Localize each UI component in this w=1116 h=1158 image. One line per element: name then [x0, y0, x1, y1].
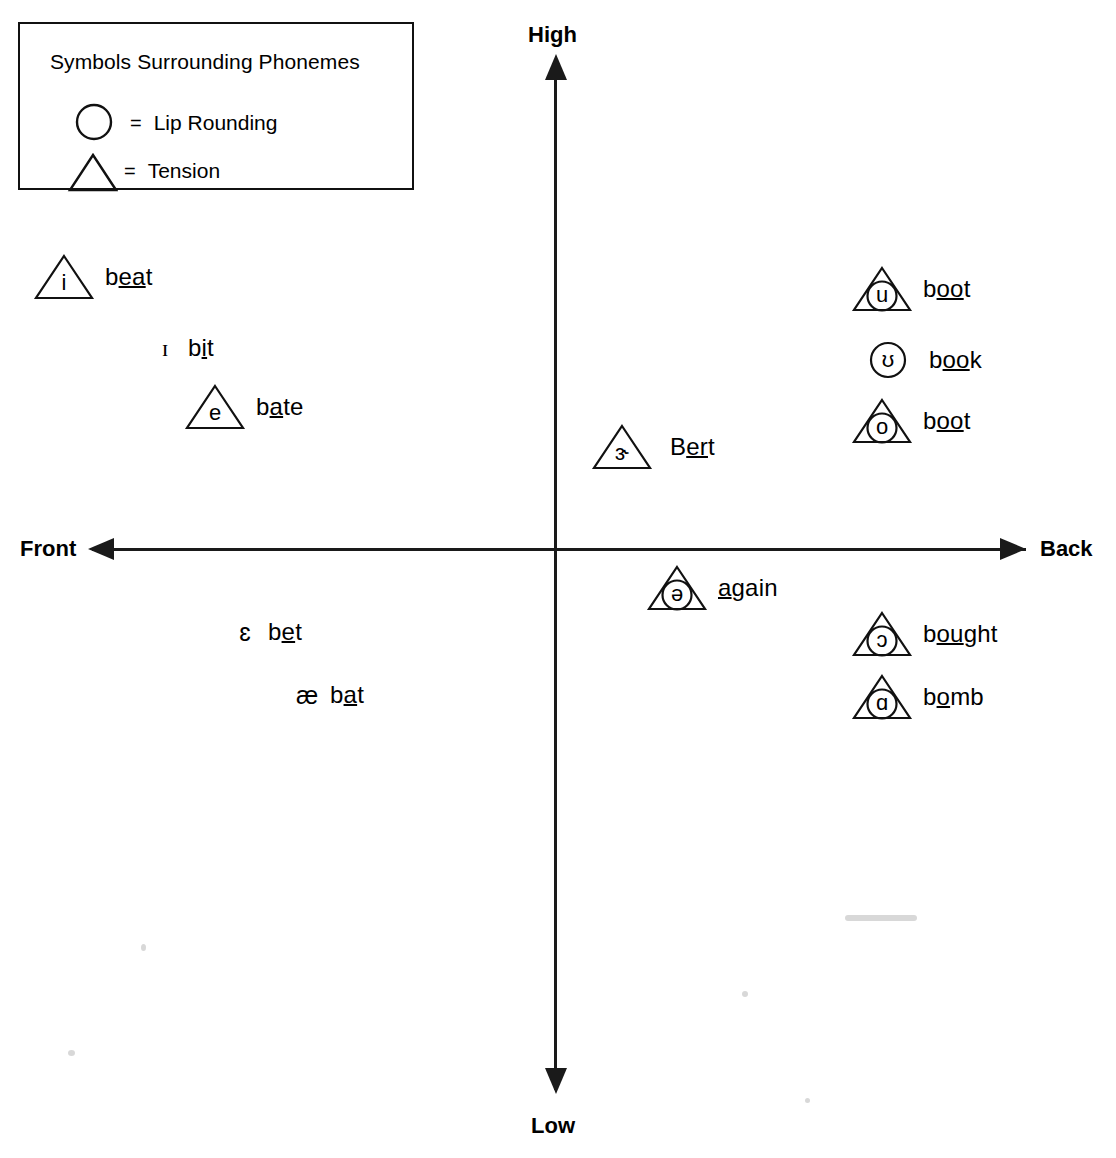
circle-icon [72, 102, 124, 144]
word-suffix: t [964, 407, 971, 434]
arrow-up-icon [545, 54, 567, 80]
word-vowel-letters: er [686, 433, 708, 460]
word-vowel-letters: a [718, 574, 732, 601]
word-prefix: b [188, 334, 202, 361]
word-vowel-letters: o [937, 683, 951, 710]
legend-equals-sign: = [130, 112, 142, 135]
word-suffix: t [964, 275, 971, 302]
phoneme-symbol-shaped: ɔ [851, 610, 913, 658]
word-suffix: gain [732, 574, 778, 601]
vowel-entry: ibeat [33, 253, 153, 301]
scan-speckle [742, 991, 748, 997]
axis-label-high: High [528, 22, 577, 48]
word-prefix: b [923, 275, 937, 302]
word-suffix: t [146, 263, 153, 290]
legend-label-tension: Tension [148, 159, 220, 183]
vowel-entry: ɛbet [232, 610, 302, 654]
legend-entry-tension: = Tension [66, 150, 220, 192]
phoneme-glyph: ʊ [882, 349, 895, 371]
scan-speckle [68, 1050, 75, 1056]
phoneme-symbol-shaped: o [851, 397, 913, 445]
phoneme-symbol-shaped: ɝ [588, 423, 656, 471]
scan-speckle [141, 944, 146, 951]
word-vowel-letters: oo [943, 346, 970, 373]
word-vowel-letters: a [344, 681, 358, 708]
vowel-entry: ʊbook [857, 336, 982, 384]
word-suffix: k [970, 346, 982, 373]
phoneme-glyph: o [876, 416, 888, 438]
vowel-entry: ɪbit [152, 326, 214, 370]
horizontal-axis-line [92, 548, 1026, 551]
scan-speckle [845, 915, 917, 921]
phoneme-glyph: ɪ [162, 336, 169, 360]
phoneme-glyph: æ [296, 683, 318, 708]
axis-label-low: Low [531, 1113, 575, 1139]
word-suffix: ght [964, 620, 998, 647]
phoneme-glyph: ɑ [876, 692, 888, 714]
word-vowel-letters: oo [937, 275, 964, 302]
word-suffix: t [295, 618, 302, 645]
arrow-down-icon [545, 1068, 567, 1094]
word-vowel-letters: ea [119, 263, 146, 290]
phoneme-glyph: ə [671, 583, 683, 605]
legend-equals-sign: = [124, 160, 136, 183]
axis-label-front: Front [20, 536, 76, 562]
legend-entry-lip-rounding: = Lip Rounding [72, 102, 277, 144]
vowel-entry: uboot [851, 265, 971, 313]
phoneme-glyph: i [62, 272, 67, 294]
vowel-entry: oboot [851, 397, 971, 445]
example-word: bet [268, 618, 302, 646]
word-prefix: B [670, 433, 686, 460]
axis-label-back: Back [1040, 536, 1093, 562]
phoneme-symbol-shaped: ʊ [857, 336, 919, 384]
phoneme-symbol-plain: æ [294, 673, 320, 717]
phoneme-glyph: ɔ [877, 629, 888, 651]
word-prefix: b [256, 393, 270, 420]
phoneme-symbol-shaped: i [33, 253, 95, 301]
phoneme-glyph: ɝ [615, 442, 629, 464]
example-word: bomb [923, 683, 984, 711]
vowel-entry: ɑbomb [851, 673, 984, 721]
vowel-entry: ɝBert [588, 423, 715, 471]
word-vowel-letters: oo [937, 407, 964, 434]
example-word: bat [330, 681, 364, 709]
vowel-entry: æbat [294, 673, 364, 717]
word-suffix: mb [950, 683, 984, 710]
example-word: beat [105, 263, 153, 291]
word-vowel-letters: a [270, 393, 284, 420]
example-word: Bert [670, 433, 715, 461]
example-word: bate [256, 393, 304, 421]
word-suffix: t [207, 334, 214, 361]
word-prefix: b [923, 683, 937, 710]
phoneme-symbol-shaped: ə [646, 564, 708, 612]
phoneme-symbol-shaped: ɑ [851, 673, 913, 721]
scan-speckle [805, 1098, 810, 1103]
vowel-entry: ɔbought [851, 610, 998, 658]
phoneme-glyph: u [876, 284, 888, 306]
triangle-icon [66, 150, 118, 192]
vowel-entry: ebate [184, 383, 304, 431]
word-prefix: b [268, 618, 282, 645]
vertical-axis-line [554, 66, 557, 1090]
word-suffix: t [708, 433, 715, 460]
example-word: boot [923, 407, 971, 435]
vowel-entry: əagain [646, 564, 778, 612]
arrow-right-icon [1000, 538, 1026, 560]
example-word: book [929, 346, 982, 374]
phoneme-symbol-plain: ɛ [232, 610, 258, 654]
example-word: boot [923, 275, 971, 303]
vowel-chart-diagram: Symbols Surrounding Phonemes = Lip Round… [0, 0, 1116, 1158]
arrow-left-icon [88, 538, 114, 560]
word-prefix: b [923, 407, 937, 434]
word-vowel-letters: e [282, 618, 296, 645]
phoneme-symbol-shaped: e [184, 383, 246, 431]
phoneme-symbol-plain: ɪ [152, 326, 178, 370]
word-prefix: b [105, 263, 119, 290]
word-suffix: t [357, 681, 364, 708]
phoneme-glyph: e [209, 402, 221, 424]
word-prefix: b [929, 346, 943, 373]
example-word: again [718, 574, 778, 602]
word-prefix: b [923, 620, 937, 647]
word-suffix: te [283, 393, 303, 420]
word-vowel-letters: ou [937, 620, 964, 647]
